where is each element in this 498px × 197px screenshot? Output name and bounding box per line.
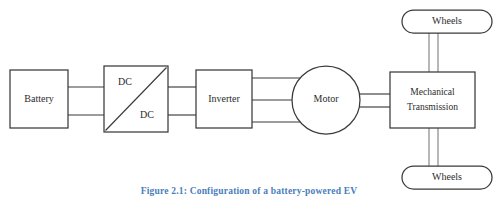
connection-motor-to-transmission [358, 94, 390, 107]
dcdc-output-label: DC [140, 109, 154, 120]
connection-dcdc-to-inverter [168, 87, 196, 115]
transmission-label-line1: Mechanical [410, 87, 455, 97]
wheels-top-label: Wheels [432, 15, 462, 26]
wheels-bottom-label: Wheels [432, 171, 462, 182]
battery-label: Battery [24, 93, 53, 104]
node-mechanical-transmission[interactable]: Mechanical Transmission [390, 72, 475, 128]
powertrain-diagram: Battery DC DC Inverter Motor Mechanical … [0, 0, 498, 197]
motor-label: Motor [314, 93, 340, 104]
figure-container: Battery DC DC Inverter Motor Mechanical … [0, 0, 498, 197]
figure-caption: Figure 2.1: Configuration of a battery-p… [0, 186, 498, 196]
node-motor[interactable]: Motor [292, 66, 360, 134]
node-inverter[interactable]: Inverter [196, 70, 252, 128]
node-battery[interactable]: Battery [10, 70, 68, 128]
dcdc-input-label: DC [118, 76, 132, 87]
transmission-label-line2: Transmission [407, 102, 458, 112]
connection-transmission-to-wheels-top [429, 33, 438, 78]
transmission-box [390, 72, 475, 128]
connection-battery-to-dcdc [68, 87, 104, 115]
node-wheels-top[interactable]: Wheels [402, 10, 492, 33]
node-dcdc-converter[interactable]: DC DC [104, 66, 168, 132]
inverter-label: Inverter [208, 93, 240, 104]
